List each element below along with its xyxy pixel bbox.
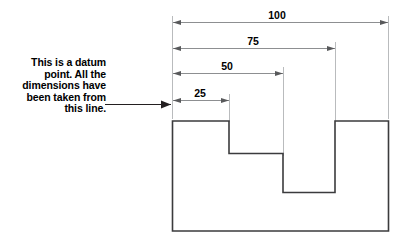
drawing-svg — [0, 0, 403, 244]
datum-note-line-5: this line. — [4, 103, 106, 115]
technical-drawing-canvas: This is a datum point. All the dimension… — [0, 0, 403, 244]
dimension-label-100: 100 — [268, 9, 286, 21]
dimension-label-50: 50 — [221, 60, 233, 72]
stepped-block-profile — [173, 121, 389, 231]
dimension-label-75: 75 — [247, 35, 259, 47]
datum-note: This is a datum point. All the dimension… — [4, 57, 106, 115]
dimension-label-25: 25 — [194, 87, 206, 99]
datum-note-line-1: This is a datum — [4, 57, 106, 69]
